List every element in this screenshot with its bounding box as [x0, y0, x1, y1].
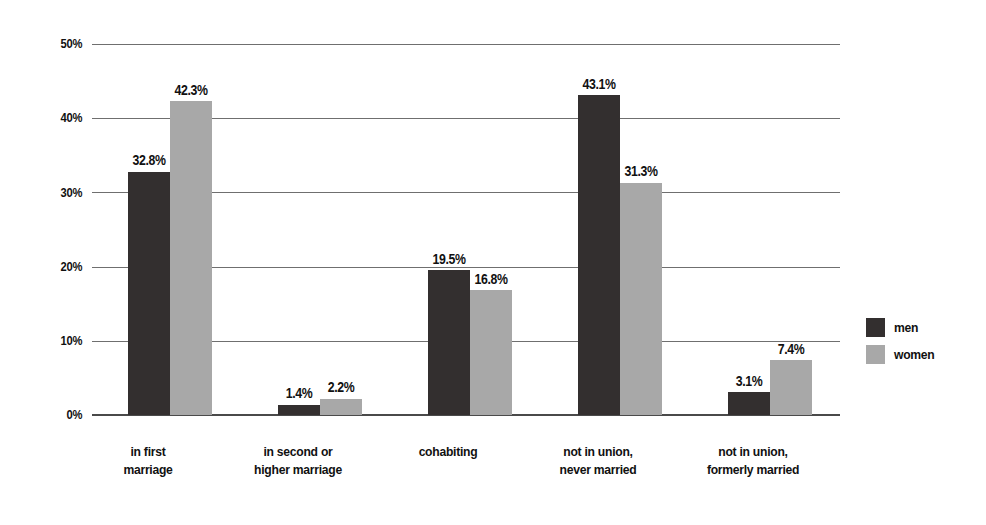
bar-men-not-in-union-formerly-married[interactable]: 3.1% [728, 392, 770, 415]
bar-women-in-first-marriage[interactable]: 42.3% [170, 101, 212, 415]
bar-group-cohabiting: 19.5% 16.8% [428, 44, 512, 415]
y-tick-50: 50% [60, 36, 82, 51]
bar-men-in-first-marriage[interactable]: 32.8% [128, 172, 170, 415]
legend: men women [866, 314, 939, 368]
bar-men-in-second-or-higher-marriage[interactable]: 1.4% [278, 405, 320, 415]
bar-group-not-in-union-never-married: 43.1% 31.3% [578, 44, 662, 415]
y-tick-20: 20% [60, 259, 82, 274]
bar-value-women-cohabiting: 16.8% [474, 272, 509, 287]
bar-value-women-not-in-union-formerly-married: 7.4% [777, 342, 805, 357]
legend-item-women[interactable]: women [866, 341, 939, 368]
y-tick-40: 40% [60, 110, 82, 125]
x-label-in-first-marriage: in first marriage [85, 443, 211, 479]
legend-label-men: men [894, 320, 918, 335]
bar-value-men-in-first-marriage: 32.8% [132, 153, 167, 168]
bar-women-in-second-or-higher-marriage[interactable]: 2.2% [320, 399, 362, 415]
x-label-cohabiting: cohabiting [385, 443, 511, 461]
bar-men-cohabiting[interactable]: 19.5% [428, 270, 470, 415]
y-axis: 50% 40% 30% 20% 10% 0% [42, 0, 82, 525]
legend-item-men[interactable]: men [866, 314, 939, 341]
bar-group-in-first-marriage: 32.8% 42.3% [128, 44, 212, 415]
bar-women-not-in-union-formerly-married[interactable]: 7.4% [770, 360, 812, 415]
bar-value-men-not-in-union-never-married: 43.1% [582, 77, 617, 92]
bar-women-cohabiting[interactable]: 16.8% [470, 290, 512, 415]
x-label-in-second-or-higher-marriage: in second or higher marriage [235, 443, 361, 479]
bar-women-not-in-union-never-married[interactable]: 31.3% [620, 183, 662, 415]
x-label-not-in-union-never-married: not in union, never married [535, 443, 661, 479]
bar-value-women-in-second-or-higher-marriage: 2.2% [327, 380, 355, 395]
legend-swatch-men-icon [866, 318, 885, 337]
plot-area: 32.8% 42.3% 1.4% 2.2% 19.5% 16.8% [92, 44, 840, 415]
y-tick-0: 0% [66, 407, 82, 422]
bar-value-women-in-first-marriage: 42.3% [174, 83, 209, 98]
bar-value-men-cohabiting: 19.5% [432, 252, 467, 267]
bar-group-not-in-union-formerly-married: 3.1% 7.4% [728, 44, 812, 415]
bar-chart: 50% 40% 30% 20% 10% 0% 32.8% 42.3% 1.4% [0, 0, 986, 525]
bar-value-women-not-in-union-never-married: 31.3% [624, 164, 659, 179]
y-tick-10: 10% [60, 333, 82, 348]
bar-value-men-not-in-union-formerly-married: 3.1% [735, 374, 763, 389]
x-label-not-in-union-formerly-married: not in union, formerly married [686, 443, 821, 479]
legend-swatch-women-icon [866, 345, 885, 364]
legend-label-women: women [894, 347, 935, 362]
bar-value-men-in-second-or-higher-marriage: 1.4% [285, 386, 313, 401]
bar-men-not-in-union-never-married[interactable]: 43.1% [578, 95, 620, 415]
bar-group-in-second-or-higher-marriage: 1.4% 2.2% [278, 44, 362, 415]
y-tick-30: 30% [60, 185, 82, 200]
